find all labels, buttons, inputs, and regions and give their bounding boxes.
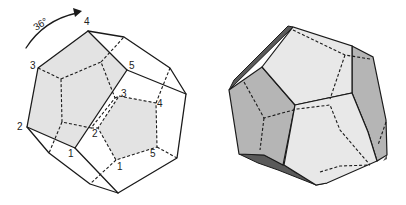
vertex-label-2: 2	[17, 121, 23, 132]
edge	[127, 70, 186, 94]
rotation-arrow-icon	[26, 13, 77, 48]
back-vertex-label-1: 1	[117, 161, 123, 172]
back-pentagon-face	[98, 96, 157, 160]
vertex-label-3: 3	[30, 60, 36, 71]
back-vertex-label-2: 2	[92, 128, 98, 139]
rotation-angle-label: 36°	[31, 15, 50, 32]
dodecahedron-diagram: 36° 4 3 2 1 5 3 4 5 1 2	[0, 0, 406, 205]
back-vertex-label-5: 5	[150, 148, 156, 159]
rotation-arrowhead-icon	[73, 8, 82, 17]
vertex-label-5: 5	[129, 60, 135, 71]
hidden-edge	[157, 147, 177, 158]
right-dodecahedron-shaded	[229, 26, 387, 185]
left-dodecahedron-wireframe: 36° 4 3 2 1 5 3 4 5 1 2	[17, 8, 186, 193]
vertex-label-1: 1	[68, 148, 74, 159]
back-vertex-label-3: 3	[121, 88, 127, 99]
vertex-label-4: 4	[84, 16, 90, 27]
hidden-edge	[90, 160, 116, 184]
back-vertex-label-4: 4	[157, 98, 163, 109]
